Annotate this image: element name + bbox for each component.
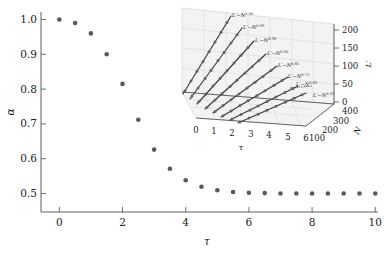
data-point [373,191,378,196]
data-point [278,191,283,196]
inset-tau-axis-label: τ [239,143,244,152]
data-point [57,17,62,22]
y-tick-label-0.5: 0.5 [20,187,37,199]
data-point [326,191,331,196]
inset-z-axis-label: L′ [364,60,373,68]
data-point [310,191,315,196]
x-tick-label-6: 6 [246,216,253,228]
y-tick-label-0.6: 0.6 [20,152,37,164]
inset-n-tick-300: 300 [333,116,349,126]
inset-z-tick-100: 100 [342,61,358,71]
x-tick-label-2: 2 [119,216,126,228]
y-tick-label-0.9: 0.9 [20,48,37,60]
data-point [231,190,236,195]
x-tick-label-8: 8 [309,216,316,228]
inset-z-tick-150: 150 [342,43,358,53]
data-point [89,31,94,36]
data-point [120,82,125,87]
inset-n-tick-200: 200 [322,125,338,135]
figure-container: 1.0 0.9 0.8 0.7 0.6 0.5 0 2 4 6 8 10 α τ [0,0,386,253]
data-point [183,178,188,183]
y-axis-label: α [4,108,16,115]
x-tick-label-4: 4 [182,216,189,228]
x-axis-label: τ [204,235,210,247]
y-tick-label-1.0: 1.0 [20,13,37,25]
x-tick-label-0: 0 [56,216,63,228]
data-point [73,21,78,26]
inset-z-tick-50: 50 [342,79,353,89]
data-point [152,147,157,152]
data-point [357,191,362,196]
inset-tau-tick-2: 2 [229,128,234,138]
data-point [199,185,204,190]
y-tick-label-0.8: 0.8 [20,83,37,95]
inset-n-tick-400: 400 [342,106,358,116]
x-tick-label-10: 10 [369,216,382,228]
inset-tau-tick-5: 5 [285,132,290,142]
figure-svg: 1.0 0.9 0.8 0.7 0.6 0.5 0 2 4 6 8 10 α τ [0,0,386,253]
data-point [341,191,346,196]
data-point [215,188,220,193]
inset-z-tick-200: 200 [342,25,358,35]
inset-tau-tick-3: 3 [248,129,253,139]
inset-tau-tick-4: 4 [266,130,271,140]
data-point [168,167,173,172]
data-point [136,117,141,122]
inset-tau-tick-0: 0 [193,125,198,135]
y-tick-label-0.7: 0.7 [20,117,37,129]
data-point [247,190,252,195]
data-point [262,191,267,196]
inset-tau-tick-1: 1 [211,126,216,136]
inset-z-tick-0: 0 [342,97,347,107]
data-point [294,191,299,196]
data-point [104,52,109,57]
